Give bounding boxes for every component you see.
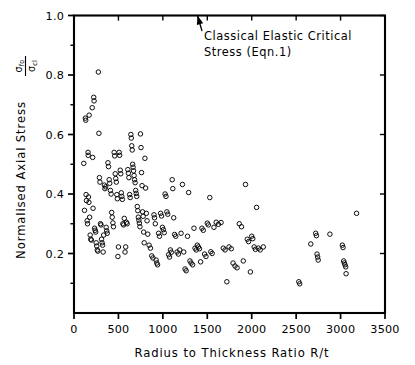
x-tick-label: 500	[107, 323, 129, 336]
data-point	[208, 195, 213, 200]
x-tick-label: 3000	[326, 323, 355, 336]
chart-figure: 0500100015002000250030003500 0.20.40.60.…	[0, 0, 415, 365]
annotation-line-1: Classical Elastic Critical	[204, 29, 352, 43]
data-point	[116, 245, 121, 250]
data-point	[143, 156, 148, 161]
data-point	[117, 153, 122, 158]
data-point	[159, 214, 164, 219]
data-point	[97, 131, 102, 136]
data-point	[138, 132, 143, 137]
data-point	[171, 216, 176, 221]
plot-frame	[74, 16, 385, 314]
data-point	[241, 259, 246, 264]
data-point	[82, 208, 87, 213]
data-point	[134, 194, 139, 199]
data-point	[96, 70, 101, 75]
data-point	[152, 216, 157, 221]
scatter-plot: 0500100015002000250030003500 0.20.40.60.…	[0, 0, 415, 365]
data-point	[110, 215, 115, 220]
data-point	[139, 145, 144, 150]
y-tick-label: 0.8	[46, 69, 64, 82]
data-point	[181, 250, 186, 255]
data-point	[123, 245, 128, 250]
data-point	[128, 195, 133, 200]
data-point	[186, 190, 191, 195]
x-tick-labels: 0500100015002000250030003500	[70, 323, 399, 336]
data-point	[261, 245, 266, 250]
data-point	[109, 210, 114, 215]
data-point	[179, 231, 184, 236]
data-point	[87, 215, 92, 220]
data-point	[316, 258, 321, 263]
annotation-classical-elastic: Classical Elastic Critical Stress (Eqn.1…	[197, 16, 352, 60]
data-point	[127, 175, 132, 180]
data-point	[171, 186, 176, 191]
data-point	[143, 186, 148, 191]
axis-ticks	[68, 16, 385, 320]
x-tick-label: 1500	[193, 323, 222, 336]
data-point	[91, 206, 96, 211]
x-tick-label: 2500	[282, 323, 311, 336]
data-point	[133, 180, 138, 185]
data-point	[87, 113, 92, 118]
data-point	[243, 182, 248, 187]
x-tick-label: 3500	[370, 323, 399, 336]
data-point	[185, 234, 190, 239]
data-point	[192, 226, 197, 231]
y-tick-label: 1.0	[46, 10, 64, 23]
y-tick-label: 0.2	[46, 248, 64, 261]
x-tick-label: 1000	[148, 323, 177, 336]
data-point	[90, 155, 95, 160]
data-point	[344, 271, 349, 276]
data-point	[248, 270, 253, 275]
data-point	[156, 231, 161, 236]
fraction-denominator: σcl	[26, 60, 39, 72]
data-point	[120, 197, 125, 202]
fraction-numerator: σfo	[13, 60, 26, 73]
data-point	[113, 172, 118, 177]
x-tick-label: 0	[70, 323, 77, 336]
data-point	[145, 219, 150, 224]
y-tick-labels: 0.20.40.60.81.0	[46, 10, 64, 261]
data-point	[98, 180, 103, 185]
data-point	[82, 161, 87, 166]
data-point	[153, 222, 158, 227]
y-axis-fraction: σfo σcl	[13, 56, 39, 76]
data-point	[157, 234, 162, 239]
data-point	[354, 211, 359, 216]
data-point	[86, 153, 91, 158]
data-point	[139, 170, 144, 175]
data-point	[254, 205, 259, 210]
data-point	[123, 250, 128, 255]
y-tick-label: 0.6	[46, 129, 64, 142]
data-point	[116, 254, 121, 259]
data-points	[82, 70, 359, 286]
x-axis-title: Radius to Thickness Ratio R/t	[135, 346, 330, 360]
data-point	[142, 241, 147, 246]
data-point	[90, 105, 95, 110]
data-point	[146, 232, 151, 237]
data-point	[198, 260, 203, 265]
data-point	[170, 177, 175, 182]
x-tick-label: 2000	[237, 323, 266, 336]
y-axis-title: Normalised Axial Stress	[14, 101, 28, 259]
data-point	[101, 250, 106, 255]
data-point	[309, 242, 314, 247]
data-point	[162, 230, 167, 235]
data-point	[180, 182, 185, 187]
data-point	[328, 232, 333, 237]
annotation-line-2: Stress (Eqn.1)	[204, 45, 292, 59]
data-point	[97, 175, 102, 180]
data-point	[212, 225, 217, 230]
data-point	[225, 280, 230, 285]
y-tick-label: 0.4	[46, 188, 64, 201]
data-point	[85, 222, 90, 227]
annotation-arrowhead	[197, 16, 203, 26]
